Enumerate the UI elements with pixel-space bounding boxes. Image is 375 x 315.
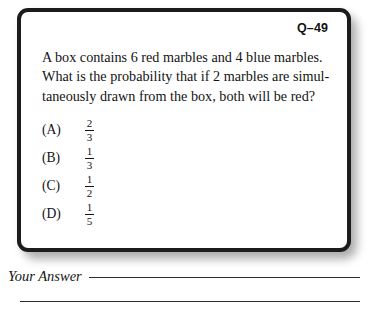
fraction-value: 1 3 — [85, 146, 94, 171]
answer-write-line-secondary[interactable] — [20, 301, 360, 302]
question-line: taneously drawn from the box, both will … — [42, 87, 327, 106]
fraction-denominator: 2 — [86, 187, 94, 199]
fraction-value: 1 2 — [85, 174, 94, 199]
question-number: Q–49 — [42, 21, 330, 35]
fraction-value: 2 3 — [85, 118, 94, 143]
choice-letter: (B) — [42, 150, 76, 166]
question-text: A box contains 6 red marbles and 4 blue … — [42, 48, 327, 106]
choice-option-d[interactable]: (D) 1 5 — [42, 201, 330, 228]
fraction-denominator: 3 — [86, 131, 94, 143]
your-answer-label: Your Answer — [8, 268, 89, 285]
fraction-numerator: 1 — [86, 202, 94, 214]
your-answer-row: Your Answer — [8, 268, 360, 285]
fraction-numerator: 1 — [86, 174, 94, 186]
choice-option-b[interactable]: (B) 1 3 — [42, 145, 330, 172]
choice-letter: (C) — [42, 178, 76, 194]
fraction-numerator: 1 — [86, 146, 94, 158]
question-line: What is the probability that if 2 marble… — [42, 67, 327, 86]
fraction-denominator: 3 — [86, 159, 94, 171]
card-border: Q–49 A box contains 6 red marbles and 4 … — [17, 8, 351, 252]
card-content: Q–49 A box contains 6 red marbles and 4 … — [21, 12, 347, 248]
question-card: Q–49 A box contains 6 red marbles and 4 … — [17, 8, 351, 252]
choice-letter: (A) — [42, 122, 76, 138]
answer-write-line[interactable] — [89, 277, 360, 278]
question-line: A box contains 6 red marbles and 4 blue … — [42, 48, 327, 67]
choice-option-c[interactable]: (C) 1 2 — [42, 173, 330, 200]
fraction-denominator: 5 — [86, 215, 94, 227]
choice-letter: (D) — [42, 206, 76, 222]
choice-option-a[interactable]: (A) 2 3 — [42, 117, 330, 144]
fraction-value: 1 5 — [85, 202, 94, 227]
fraction-numerator: 2 — [86, 118, 94, 130]
answer-choices: (A) 2 3 (B) 1 3 — [42, 117, 330, 228]
worksheet-page: Q–49 A box contains 6 red marbles and 4 … — [0, 0, 375, 315]
